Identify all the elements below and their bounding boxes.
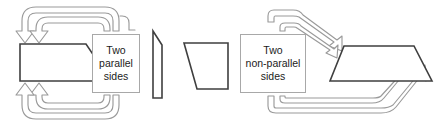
callout-nonparallel-line-2: non-parallel xyxy=(246,57,301,70)
shape-thin-quadrilateral xyxy=(153,31,162,98)
geometry-diagram: Two parallel sides Two non-parallel side… xyxy=(0,0,446,131)
callout-parallel-line-3: sides xyxy=(104,70,129,83)
shape-trapezoid-slanted-left xyxy=(184,43,228,89)
diagram-canvas xyxy=(0,0,446,131)
callout-nonparallel-line-1: Two xyxy=(263,44,282,57)
callout-parallel-line-2: parallel xyxy=(99,57,133,70)
callout-parallel-line-1: Two xyxy=(106,44,125,57)
callout-nonparallel-line-3: sides xyxy=(261,70,286,83)
callout-two-non-parallel-sides: Two non-parallel sides xyxy=(240,34,306,93)
callout-two-parallel-sides: Two parallel sides xyxy=(92,34,140,93)
shape-wide-trapezoid xyxy=(330,46,432,81)
